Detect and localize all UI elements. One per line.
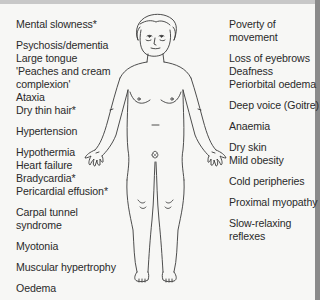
label-ataxia: Ataxia (16, 91, 45, 104)
label-hypertension: Hypertension (16, 125, 77, 138)
right-arm-outline (183, 78, 226, 166)
legs-outline (127, 162, 184, 282)
label-carpal-tunnel-2: syndrome (16, 219, 62, 232)
right-edge-bar (315, 0, 320, 300)
label-large-tongue: Large tongue (16, 52, 77, 65)
label-bradycardia: Bradycardia* (16, 172, 75, 185)
face-outline (140, 30, 171, 56)
top-border (0, 0, 320, 4)
body-figure-illustration (75, 10, 255, 300)
label-heart-failure: Heart failure (16, 159, 72, 172)
label-dry-thin-hair: Dry thin hair* (16, 104, 76, 117)
torso-outline (120, 62, 191, 180)
label-carpal-tunnel-1: Carpal tunnel (16, 206, 78, 219)
label-hypothermia: Hypothermia (16, 146, 75, 159)
label-myotonia: Myotonia (16, 240, 58, 253)
label-oedema: Oedema (16, 282, 56, 295)
left-arm-outline (85, 78, 128, 166)
label-peaches-cream-2: complexion' (16, 78, 71, 91)
